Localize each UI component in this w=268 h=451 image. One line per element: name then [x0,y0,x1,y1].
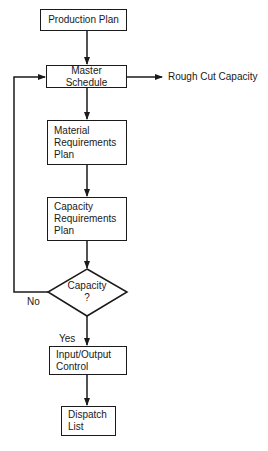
crp-line-1: Capacity [54,201,120,213]
io-line-2: Control [56,361,120,373]
crp-line-2: Requirements [54,213,120,225]
node-material-requirements-plan: Material Requirements Plan [47,120,127,165]
edge-label-yes: Yes [59,333,75,345]
crp-line-3: Plan [54,225,120,237]
dispatch-line-2: List [68,421,109,433]
node-rough-cut-capacity: Rough Cut Capacity [168,71,258,83]
decision-line-1: Capacity [47,280,127,292]
node-master-schedule: Master Schedule [46,65,127,88]
node-production-plan: Production Plan [40,9,127,31]
connector-lines [0,0,268,451]
node-capacity-requirements-plan: Capacity Requirements Plan [47,197,127,241]
dispatch-line-1: Dispatch [68,409,109,421]
node-input-output-control: Input/Output Control [49,346,127,375]
arrow-decision-feedback [14,77,48,292]
edge-label-no: No [27,296,40,308]
node-production-plan-label: Production Plan [48,14,119,26]
mrp-line-2: Requirements [54,137,120,149]
node-capacity-decision: Capacity ? [47,280,127,304]
node-dispatch-list: Dispatch List [61,406,116,436]
mrp-line-3: Plan [54,149,120,161]
io-line-1: Input/Output [56,349,120,361]
mrp-line-1: Material [54,125,120,137]
decision-line-2: ? [47,292,127,304]
node-master-schedule-label: Master Schedule [53,65,120,89]
